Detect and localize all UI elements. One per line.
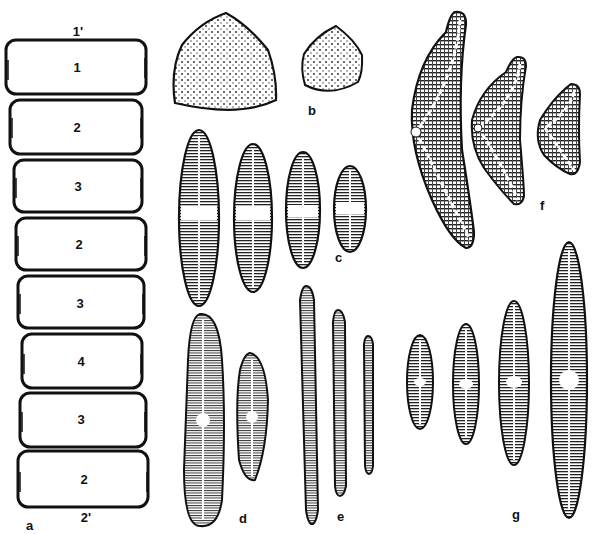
panel-c-elliptic-diatoms: c	[179, 130, 366, 306]
panel-label-g: g	[512, 507, 520, 522]
cell-label: 3	[77, 412, 84, 427]
panel-label-a: a	[26, 518, 34, 533]
cell-label: 1	[73, 60, 80, 75]
panel-label-b: b	[308, 103, 316, 118]
panel-e-needle-diatoms: e	[300, 286, 373, 524]
cell-label: 4	[77, 354, 85, 369]
diatom-figure: 1' 1 2 3 2 3 4 3 2 2' a b	[0, 0, 594, 534]
panel-label-c: c	[335, 250, 342, 265]
panel-a-cell-chain: 1' 1 2 3 2 3 4 3 2 2' a	[6, 24, 148, 533]
panel-b-triangular-diatoms: b	[174, 13, 363, 118]
panel-g-lanceolate-diatoms: g	[407, 242, 587, 522]
cell-label: 3	[74, 179, 81, 194]
cell-label: 2	[73, 120, 80, 135]
cell-label: 2	[75, 237, 82, 252]
panel-label-f: f	[540, 198, 545, 213]
cell-label: 3	[76, 296, 83, 311]
panel-f-crescent-diatoms: f	[411, 12, 580, 248]
panel-d-diatoms: d	[184, 314, 268, 526]
cell-label: 2	[80, 472, 87, 487]
panel-label-d: d	[239, 511, 247, 526]
label-1-prime: 1'	[73, 24, 83, 39]
panel-label-e: e	[337, 509, 344, 524]
label-2-prime: 2'	[81, 510, 91, 525]
